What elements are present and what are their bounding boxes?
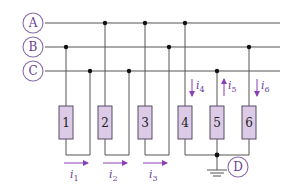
resistor-2-label: 2 [101,116,109,130]
node-a: A [23,13,43,33]
current-label-1: i1 [70,168,79,183]
bus-lines [45,23,280,71]
resistor-6-label: 6 [245,116,253,130]
ground-node: D [207,153,248,177]
resistor-2-branch: 2 i2 [98,21,131,183]
current-label-6: i6 [261,79,270,94]
resistor-5-label: 5 [213,116,221,130]
circuit-diagram: A B C 1 i1 2 i2 3 i3 [0,0,292,190]
resistor-1-label: 1 [62,116,70,130]
node-c-label: C [28,64,37,78]
current-label-2: i2 [109,168,118,183]
node-c: C [23,61,43,81]
current-label-5: i5 [228,79,237,94]
resistor-3-branch: 3 i3 [138,21,171,183]
resistor-1-branch: 1 i1 [59,45,92,183]
node-b: B [23,37,43,57]
resistor-6-branch: 6 i6 [242,45,270,139]
current-label-3: i3 [149,168,158,183]
ground-icon [207,170,227,176]
node-b-label: B [29,40,38,54]
node-a-label: A [28,16,38,30]
current-label-4: i4 [196,79,205,94]
resistor-3-label: 3 [141,116,149,130]
node-d-label: D [233,160,243,174]
neutral-junction [215,153,220,158]
resistor-4-label: 4 [181,116,189,130]
